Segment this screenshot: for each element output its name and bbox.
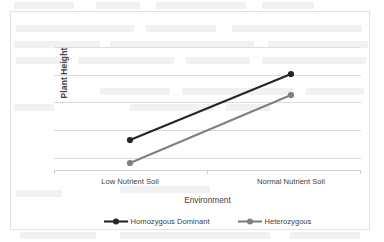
series-plot (54, 32, 361, 171)
plot-area: Plant Height Low Nutrient Soil Normal Nu… (54, 32, 361, 171)
x-tick-label-low-nutrient-soil: Low Nutrient Soil (70, 177, 190, 186)
chart-frame: Plant Height Low Nutrient Soil Normal Nu… (10, 11, 370, 230)
y-axis-title: Plant Height (59, 30, 69, 116)
legend-marker-icon-heterozygous (238, 217, 262, 226)
chart-legend: Homozygous Dominant Heterozygous (54, 217, 361, 226)
x-tick-label-normal-nutrient-soil: Normal Nutrient Soil (228, 177, 354, 186)
legend-label-homozygous-dominant: Homozygous Dominant (131, 217, 210, 226)
x-axis-title: Environment (54, 195, 361, 205)
legend-label-heterozygous: Heterozygous (265, 217, 312, 226)
data-point-homozygous-dominant-normal (288, 71, 294, 77)
chart-page: Plant Height Low Nutrient Soil Normal Nu… (0, 0, 384, 242)
data-point-heterozygous-normal (288, 92, 294, 98)
legend-entry-heterozygous[interactable]: Heterozygous (238, 217, 312, 226)
legend-marker-icon-homozygous-dominant (104, 217, 128, 226)
data-point-homozygous-dominant-low (127, 137, 133, 143)
data-point-heterozygous-low (127, 160, 133, 166)
legend-entry-homozygous-dominant[interactable]: Homozygous Dominant (104, 217, 210, 226)
